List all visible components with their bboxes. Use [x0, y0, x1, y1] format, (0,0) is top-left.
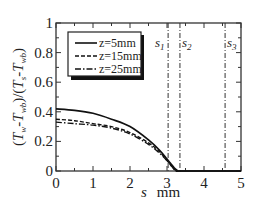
x-tick-label: 1 — [89, 175, 97, 191]
y-tick-label: 0.2 — [34, 133, 53, 149]
chart: 012345 00.20.40.60.81 z=5mm z=15mm z=25m… — [0, 0, 261, 220]
marker-label-s3: s3 — [227, 35, 237, 52]
series-line-z=15mm — [56, 119, 178, 171]
legend: z=5mm z=15mm z=25mm — [68, 32, 144, 80]
x-tick-label: 0 — [52, 175, 60, 191]
y-tick-label: 0.8 — [34, 45, 53, 61]
series-line-z=5mm — [56, 109, 241, 171]
legend-label-z25: z=25mm — [99, 62, 142, 76]
legend-label-z15: z=15mm — [99, 49, 142, 63]
series-line-z=25mm — [56, 122, 178, 171]
x-tick-label: 4 — [200, 175, 208, 191]
y-tick-label: 0.4 — [34, 104, 53, 120]
x-tick-label: 2 — [126, 175, 134, 191]
y-tick-label: 0 — [46, 163, 54, 179]
y-axis-label: (Tw-Twb)/(Ts-Twb) — [10, 48, 28, 146]
legend-label-z5: z=5mm — [99, 36, 136, 50]
vertical-marker-lines — [168, 23, 225, 171]
y-tick-label: 1 — [46, 15, 54, 31]
marker-label-s2: s2 — [182, 35, 192, 52]
x-axis-label: smm — [141, 184, 181, 200]
y-tick-label: 0.6 — [34, 74, 53, 90]
marker-label-s1: s1 — [155, 35, 165, 52]
series-curves — [56, 109, 241, 171]
x-tick-labels: 012345 — [52, 175, 245, 191]
x-tick-label: 5 — [237, 175, 245, 191]
y-tick-labels: 00.20.40.60.81 — [34, 15, 53, 179]
